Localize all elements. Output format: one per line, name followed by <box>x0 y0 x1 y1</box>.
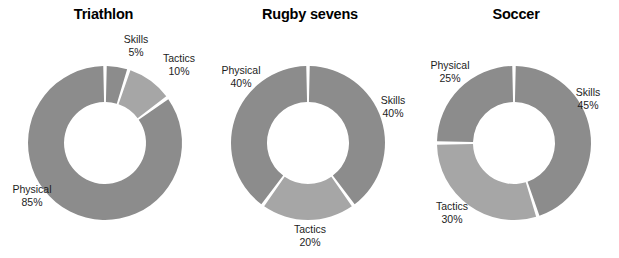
label-soccer-tactics: Tactics 30% <box>425 200 479 225</box>
chart-panel-rugby-sevens: Rugby sevens Physical 40% Skills 40% Tac… <box>207 0 413 258</box>
label-text: Tactics <box>294 223 326 235</box>
label-value: 25% <box>419 72 481 85</box>
donut-chart-figure: Triathlon Skills 5% Tactics 10% Physical… <box>0 0 619 258</box>
label-text: Physical <box>221 64 260 76</box>
donut-triathlon <box>0 0 207 258</box>
label-value: 45% <box>568 99 608 112</box>
label-rugby-tactics: Tactics 20% <box>283 223 337 248</box>
label-text: Skills <box>381 94 406 106</box>
label-soccer-skills: Skills 45% <box>568 86 608 111</box>
chart-panel-triathlon: Triathlon Skills 5% Tactics 10% Physical… <box>0 0 207 258</box>
chart-panel-soccer: Soccer Physical 25% Skills 45% Tactics 3… <box>413 0 619 258</box>
label-text: Tactics <box>163 52 195 64</box>
label-text: Tactics <box>436 200 468 212</box>
label-value: 40% <box>210 77 272 90</box>
label-soccer-physical: Physical 25% <box>419 59 481 84</box>
label-text: Skills <box>124 33 149 45</box>
donut-svg-rugby-sevens <box>207 0 413 258</box>
donut-rugby-sevens <box>207 0 413 258</box>
label-value: 40% <box>373 107 413 120</box>
label-value: 85% <box>2 196 62 209</box>
label-value: 30% <box>425 213 479 226</box>
label-value: 10% <box>152 65 206 78</box>
label-rugby-physical: Physical 40% <box>210 64 272 89</box>
label-triathlon-tactics: Tactics 10% <box>152 52 206 77</box>
label-rugby-skills: Skills 40% <box>373 94 413 119</box>
label-value: 20% <box>283 236 337 249</box>
donut-svg-triathlon <box>0 0 207 258</box>
label-text: Physical <box>430 59 469 71</box>
label-text: Skills <box>576 86 601 98</box>
label-triathlon-physical: Physical 85% <box>2 183 62 208</box>
label-text: Physical <box>12 183 51 195</box>
